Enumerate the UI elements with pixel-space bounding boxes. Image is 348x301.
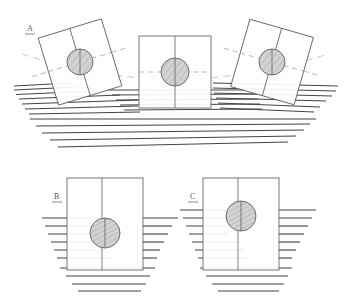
diagram-canvas: A bbox=[0, 0, 348, 301]
panel-a-center-block-circle bbox=[161, 58, 189, 86]
panel-a-left-block-circle bbox=[67, 49, 93, 75]
panel-c-circle bbox=[226, 201, 256, 231]
panel-b-label: B bbox=[54, 192, 60, 201]
panel-b-label-group: B bbox=[52, 192, 62, 202]
panel-b-circle bbox=[90, 218, 120, 248]
panel-c-label: C bbox=[190, 192, 196, 201]
panel-a-label-group: A bbox=[25, 24, 35, 34]
panel-c-waterlines-bottom bbox=[200, 268, 292, 291]
panel-c-label-group: C bbox=[188, 192, 198, 202]
panel-b: B bbox=[42, 178, 178, 291]
panel-b-waterlines-right bbox=[143, 218, 178, 258]
panel-c-waterlines-right bbox=[279, 210, 316, 258]
panel-c: C bbox=[180, 178, 316, 291]
technical-diagram-svg: A bbox=[0, 0, 348, 301]
panel-b-waterlines-bottom bbox=[60, 268, 155, 291]
panel-a: A bbox=[14, 14, 338, 147]
panel-a-label: A bbox=[27, 24, 33, 33]
panel-a-right-block-circle bbox=[259, 49, 285, 75]
